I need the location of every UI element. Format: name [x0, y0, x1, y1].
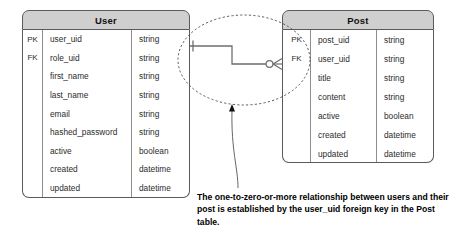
row-attribute: first_name — [42, 67, 131, 86]
table-row[interactable]: createddatetime — [23, 160, 189, 179]
table-row[interactable]: updateddatetime — [283, 144, 433, 163]
row-attribute: user_uid — [310, 49, 376, 68]
entity-post-body: PKpost_uidstringFKuser_uidstringtitlestr… — [282, 30, 434, 163]
row-type: string — [376, 49, 433, 68]
table-row[interactable]: hashed_passwordstring — [23, 123, 189, 142]
row-attribute: updated — [42, 179, 131, 198]
row-type: string — [131, 30, 189, 49]
row-key — [283, 144, 310, 163]
row-type: string — [376, 87, 433, 106]
row-attribute: email — [42, 104, 131, 123]
er-diagram-canvas: User PKuser_uidstringFKrole_uidstringfir… — [0, 0, 461, 252]
row-key — [23, 86, 42, 105]
row-attribute: created — [310, 125, 376, 144]
row-key — [283, 106, 310, 125]
row-key — [23, 104, 42, 123]
row-attribute: content — [310, 87, 376, 106]
row-type: string — [131, 67, 189, 86]
entity-post-title: Post — [347, 15, 368, 26]
table-row[interactable]: activeboolean — [283, 106, 433, 125]
row-key — [23, 67, 42, 86]
entity-post-header: Post — [282, 10, 434, 30]
row-key — [23, 160, 42, 179]
caption-leader-line — [232, 110, 238, 188]
row-attribute: active — [310, 106, 376, 125]
table-row[interactable]: createddatetime — [283, 125, 433, 144]
row-type: string — [376, 30, 433, 49]
diagram-caption: The one-to-zero-or-more relationship bet… — [197, 191, 455, 228]
table-row[interactable]: FKrole_uidstring — [23, 49, 189, 68]
row-type: datetime — [131, 179, 189, 198]
row-type: string — [131, 49, 189, 68]
row-type: boolean — [131, 142, 189, 161]
row-key — [283, 68, 310, 87]
entity-post: Post PKpost_uidstringFKuser_uidstringtit… — [282, 10, 434, 163]
row-attribute: created — [42, 160, 131, 179]
row-attribute: updated — [310, 144, 376, 163]
row-type: datetime — [131, 160, 189, 179]
row-type: string — [376, 68, 433, 87]
table-row[interactable]: activeboolean — [23, 142, 189, 161]
caption-leader-arrowhead-icon — [229, 104, 235, 112]
row-attribute: active — [42, 142, 131, 161]
table-row[interactable]: emailstring — [23, 104, 189, 123]
entity-user-body: PKuser_uidstringFKrole_uidstringfirst_na… — [22, 30, 190, 198]
entity-user-title: User — [95, 15, 117, 26]
row-type: datetime — [376, 144, 433, 163]
row-key: PK — [283, 30, 310, 49]
relationship-line — [190, 46, 266, 64]
row-key — [283, 125, 310, 144]
row-attribute: role_uid — [42, 49, 131, 68]
table-row[interactable]: last_namestring — [23, 86, 189, 105]
row-key — [283, 87, 310, 106]
row-key — [23, 179, 42, 198]
table-row[interactable]: PKuser_uidstring — [23, 30, 189, 49]
row-type: string — [131, 123, 189, 142]
row-key: PK — [23, 30, 42, 49]
entity-user: User PKuser_uidstringFKrole_uidstringfir… — [22, 10, 190, 198]
table-row[interactable]: first_namestring — [23, 67, 189, 86]
cardinality-zero-circle-icon — [266, 61, 273, 68]
cardinality-many-crowsfoot-icon — [273, 59, 282, 70]
entity-user-header: User — [22, 10, 190, 30]
row-attribute: title — [310, 68, 376, 87]
table-row[interactable]: titlestring — [283, 68, 433, 87]
row-key — [23, 142, 42, 161]
row-type: datetime — [376, 125, 433, 144]
table-row[interactable]: PKpost_uidstring — [283, 30, 433, 49]
table-row[interactable]: FKuser_uidstring — [283, 49, 433, 68]
row-type: string — [131, 86, 189, 105]
row-key — [23, 123, 42, 142]
row-type: string — [131, 104, 189, 123]
row-attribute: post_uid — [310, 30, 376, 49]
row-attribute: user_uid — [42, 30, 131, 49]
table-row[interactable]: updateddatetime — [23, 179, 189, 198]
row-attribute: last_name — [42, 86, 131, 105]
row-attribute: hashed_password — [42, 123, 131, 142]
row-key: FK — [283, 49, 310, 68]
row-type: boolean — [376, 106, 433, 125]
table-row[interactable]: contentstring — [283, 87, 433, 106]
row-key: FK — [23, 49, 42, 68]
